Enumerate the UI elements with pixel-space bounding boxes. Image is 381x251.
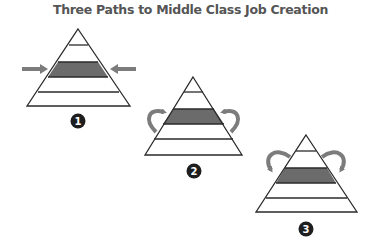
svg-text:1: 1 — [75, 116, 82, 127]
pyramid-1: 1 — [22, 29, 136, 129]
pyramid-2: 2 — [145, 77, 242, 179]
pyramid-3: 3 — [256, 135, 357, 237]
straight-arrow-right-icon — [110, 64, 136, 74]
straight-arrow-left-icon — [22, 64, 48, 74]
svg-text:3: 3 — [303, 224, 310, 235]
highlighted-band — [48, 62, 108, 77]
curved-arrow-left-icon — [268, 152, 290, 170]
badge-1: 1 — [71, 114, 86, 129]
svg-text:2: 2 — [191, 166, 198, 177]
badge-2: 2 — [187, 164, 202, 179]
badge-3: 3 — [299, 222, 314, 237]
highlighted-band — [276, 168, 336, 183]
pyramids-diagram: 1 2 3 — [0, 0, 381, 251]
curved-arrow-right-icon — [322, 152, 344, 170]
